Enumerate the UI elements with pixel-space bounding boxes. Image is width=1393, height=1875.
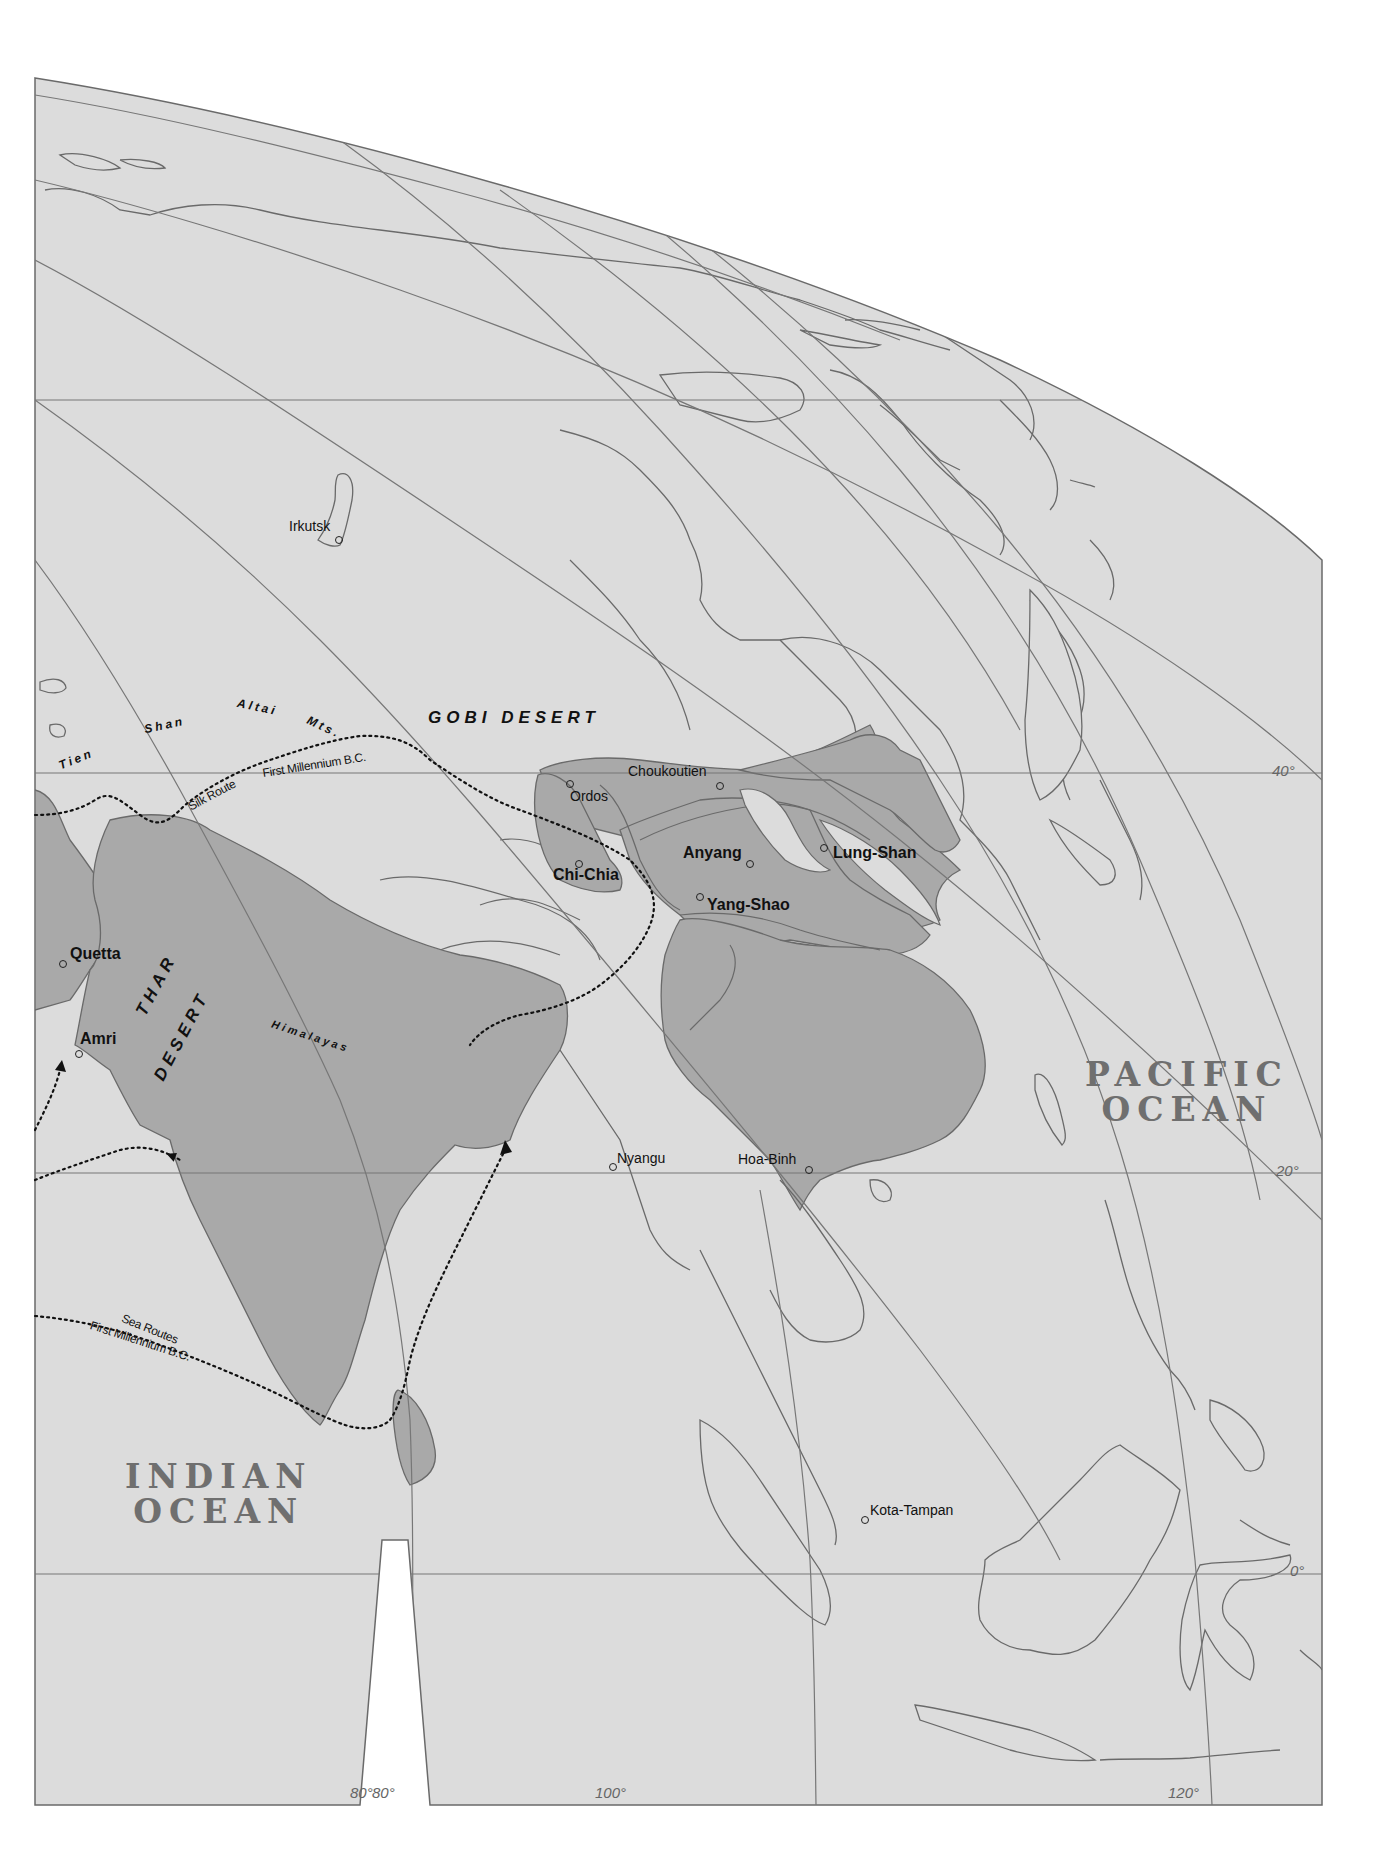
site-marker-lung-shan (820, 844, 828, 852)
site-label-choukoutien: Choukoutien (628, 763, 707, 779)
indian-line2: OCEAN (125, 1495, 312, 1530)
site-marker-hoa-binh (805, 1166, 813, 1174)
longitude-label-120: 120° (1168, 1784, 1199, 1801)
latitude-label-0: 0° (1290, 1562, 1304, 1579)
latitude-label-20: 20° (1276, 1162, 1299, 1179)
site-label-ordos: Ordos (570, 788, 608, 804)
site-label-quetta: Quetta (70, 945, 121, 963)
site-label-amri: Amri (80, 1030, 116, 1048)
site-label-lung-shan: Lung-Shan (833, 844, 917, 862)
pacific-line1: PACIFIC (1085, 1058, 1289, 1093)
longitude-label-100: 100° (595, 1784, 626, 1801)
site-label-kota-tampan: Kota-Tampan (870, 1502, 953, 1518)
map-canvas (0, 0, 1393, 1875)
indian-line1: INDIAN (125, 1460, 312, 1495)
site-marker-yang-shao (696, 893, 704, 901)
longitude-label-80-west: 80° (350, 1784, 373, 1801)
label-indian-ocean: INDIAN OCEAN (125, 1460, 312, 1529)
site-label-yang-shao: Yang-Shao (707, 896, 790, 914)
site-marker-quetta (59, 960, 67, 968)
site-marker-nyangu (609, 1163, 617, 1171)
label-gobi-desert: GOBI DESERT (428, 708, 600, 728)
site-marker-amri (75, 1050, 83, 1058)
site-label-hoa-binh: Hoa-Binh (738, 1151, 796, 1167)
site-label-nyangu: Nyangu (617, 1150, 665, 1166)
site-marker-irkutsk (335, 536, 343, 544)
longitude-label-80-east: 80° (372, 1784, 395, 1801)
site-label-irkutsk: Irkutsk (289, 518, 330, 534)
pacific-line2: OCEAN (1085, 1093, 1289, 1128)
latitude-label-40: 40° (1272, 762, 1295, 779)
site-label-chi-chia: Chi-Chia (553, 866, 619, 884)
site-marker-kota-tampan (861, 1516, 869, 1524)
site-label-anyang: Anyang (683, 844, 742, 862)
site-marker-anyang (746, 860, 754, 868)
label-pacific-ocean: PACIFIC OCEAN (1085, 1058, 1289, 1127)
site-marker-ordos (566, 780, 574, 788)
site-marker-choukoutien (716, 782, 724, 790)
